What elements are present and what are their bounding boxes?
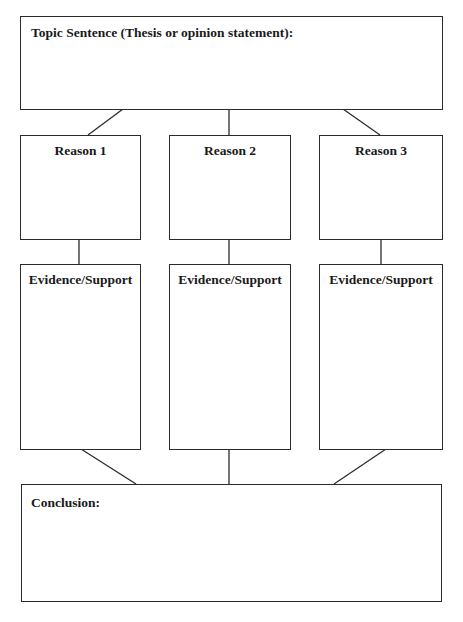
conclusion-label: Conclusion: [31, 495, 100, 511]
evidence-2-box: Evidence/Support [169, 264, 291, 450]
evidence-2-label: Evidence/Support [170, 272, 290, 288]
conclusion-box: Conclusion: [21, 484, 442, 602]
reason-1-input[interactable] [27, 164, 134, 233]
topic-sentence-label: Topic Sentence (Thesis or opinion statem… [31, 25, 293, 41]
reason-1-box: Reason 1 [20, 135, 141, 240]
reason-3-box: Reason 3 [319, 135, 443, 240]
evidence-3-box: Evidence/Support [319, 264, 443, 450]
reason-2-input[interactable] [176, 164, 284, 233]
topic-sentence-input[interactable] [27, 45, 436, 103]
evidence-1-box: Evidence/Support [20, 264, 141, 450]
reason-2-box: Reason 2 [169, 135, 291, 240]
evidence-2-input[interactable] [176, 293, 284, 443]
reason-1-label: Reason 1 [21, 143, 140, 159]
reason-3-input[interactable] [326, 164, 436, 233]
topic-sentence-box: Topic Sentence (Thesis or opinion statem… [20, 16, 443, 110]
evidence-1-input[interactable] [27, 293, 134, 443]
reason-3-label: Reason 3 [320, 143, 442, 159]
conclusion-input[interactable] [28, 515, 435, 595]
evidence-3-input[interactable] [326, 293, 436, 443]
evidence-3-label: Evidence/Support [320, 272, 442, 288]
evidence-1-label: Evidence/Support [21, 272, 140, 288]
reason-2-label: Reason 2 [170, 143, 290, 159]
